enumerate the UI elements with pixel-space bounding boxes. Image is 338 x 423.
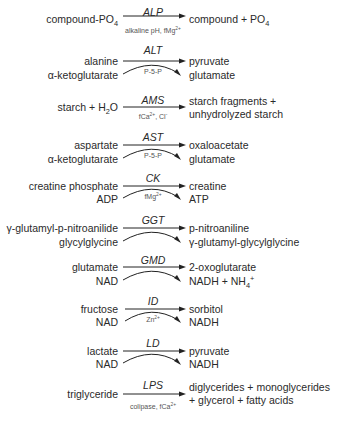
cofactor: P-5-P: [112, 67, 194, 76]
product-1: pyruvate: [189, 345, 229, 358]
substrate: starch + H2O: [58, 101, 118, 114]
cofactor: alkaline pH, fMg2+: [112, 26, 194, 35]
product-1: diglycerides + monoglycerides: [189, 381, 330, 394]
product-2: NADH + NH4+: [189, 275, 254, 288]
product-2: glutamate: [189, 153, 235, 166]
double-reaction-arrow-icon: [120, 213, 190, 253]
cofactor: Zn2+: [112, 315, 194, 324]
substrate-1: γ-glutamyl-p-nitroanilide: [7, 222, 118, 235]
product-2: NADH: [189, 358, 219, 371]
product-2: unhydrolyzed starch: [189, 108, 283, 121]
product-1: creatine: [189, 180, 226, 193]
substrate-2: NAD: [96, 275, 118, 288]
product-1: pyruvate: [189, 55, 229, 68]
double-reaction-arrow-icon: [120, 171, 190, 211]
substrate-1: creatine phosphate: [29, 180, 118, 193]
substrate-2: α-ketoglutarate: [48, 153, 118, 166]
product-2: + glycerol + fatty acids: [189, 394, 293, 407]
substrate-1: glutamate: [72, 261, 118, 274]
product-1: starch fragments +: [189, 95, 276, 108]
cofactor: fMg2+: [112, 192, 194, 201]
double-reaction-arrow-icon: [120, 130, 190, 170]
substrate: compound-PO4: [46, 13, 118, 26]
cofactor: fCa2+, Cl-: [112, 112, 194, 121]
cofactor: P-5-P: [112, 151, 194, 160]
substrate-1: lactate: [87, 345, 118, 358]
product-2: glutamate: [189, 69, 235, 82]
cofactor: colipase, fCa2+: [112, 402, 194, 411]
substrate-2: α-ketoglutarate: [48, 69, 118, 82]
substrate: triglyceride: [67, 388, 118, 401]
product-1: oxaloacetate: [189, 139, 249, 152]
product-1: 2-oxoglutarate: [189, 261, 256, 274]
double-reaction-arrow-icon: [120, 253, 190, 293]
substrate-2: NAD: [96, 358, 118, 371]
substrate-2: glycylglycine: [59, 236, 118, 249]
product-1: sorbitol: [189, 303, 223, 316]
product-2: γ-glutamyl-glycylglycine: [189, 236, 299, 249]
product-1: p-nitroaniline: [189, 222, 249, 235]
double-reaction-arrow-icon: [120, 43, 190, 83]
product: compound + PO4: [189, 13, 269, 26]
double-reaction-arrow-icon: [120, 336, 190, 376]
